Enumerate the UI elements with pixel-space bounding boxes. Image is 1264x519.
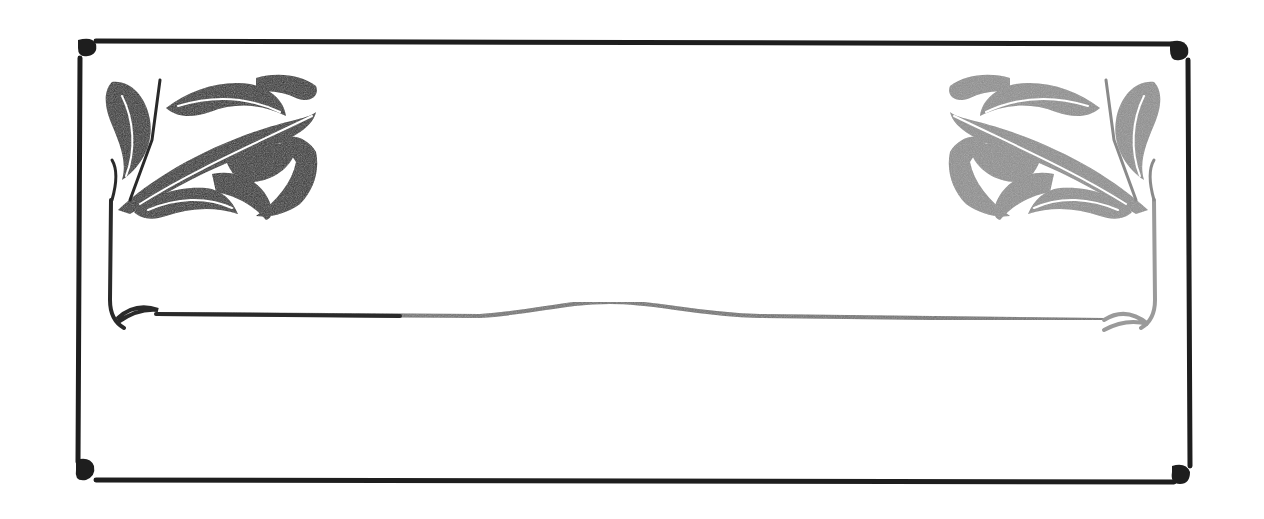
oak-leaf-ornament-left (106, 75, 317, 220)
ribbon-divider (118, 302, 1148, 330)
blank-panel (120, 330, 1150, 470)
oak-leaf-ornament-right (949, 75, 1160, 220)
ornamental-frame (0, 0, 1264, 519)
